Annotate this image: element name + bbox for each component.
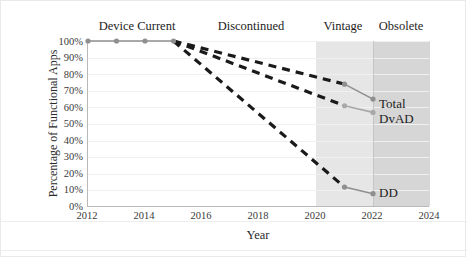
series-label-total: Total	[379, 96, 406, 112]
series-total-marker-0	[85, 38, 90, 43]
series-dvad-tail	[345, 106, 374, 113]
series-label-dvad: DvAD	[379, 111, 414, 127]
series-total-marker-3	[171, 38, 176, 43]
line-chart: Device Current Discontinued Vintage Obso…	[1, 1, 467, 257]
series-dvad-marker-0	[342, 103, 347, 108]
phase-label-device-current: Device Current	[99, 19, 176, 34]
x-tick-2018: 2018	[248, 210, 269, 221]
series-dvad-marker-1	[370, 110, 375, 115]
y-tick-60: 60%	[64, 103, 83, 114]
y-tick-30: 30%	[64, 152, 83, 163]
x-tick-2016: 2016	[191, 210, 212, 221]
y-tick-70: 70%	[64, 86, 83, 97]
series-dd-marker-1	[370, 191, 375, 196]
x-tick-2012: 2012	[77, 210, 98, 221]
series-total-marker-2	[142, 38, 147, 43]
y-tick-90: 90%	[64, 53, 83, 64]
phase-label-vintage: Vintage	[324, 19, 363, 34]
x-tick-2014: 2014	[134, 210, 155, 221]
y-tick-10: 10%	[64, 185, 83, 196]
y-tick-50: 50%	[64, 119, 83, 130]
series-total-marker-1	[370, 97, 375, 102]
y-tick-40: 40%	[64, 136, 83, 147]
series-dd-tail	[345, 187, 374, 194]
phase-label-obsolete: Obsolete	[379, 19, 423, 34]
y-tick-20: 20%	[64, 169, 83, 180]
series-dd-marker-0	[342, 184, 347, 189]
phase-label-discontinued: Discontinued	[218, 19, 285, 34]
series-dvad-dashed	[174, 41, 345, 106]
y-tick-80: 80%	[64, 70, 83, 81]
series-total-marker-0	[342, 82, 347, 87]
y-tick-100: 100%	[59, 37, 84, 48]
x-tick-2020: 2020	[305, 210, 326, 221]
series-total-marker-1	[114, 38, 119, 43]
x-axis-title: Year	[87, 228, 429, 243]
plot-area	[87, 41, 429, 207]
x-tick-2024: 2024	[419, 210, 440, 221]
x-tick-2022: 2022	[362, 210, 383, 221]
series-total-tail	[345, 84, 374, 99]
series-label-dd: DD	[379, 185, 398, 201]
